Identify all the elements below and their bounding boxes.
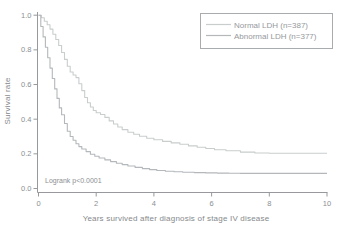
y-tick-label: 0.6 [21,80,31,89]
x-tick-label: 8 [267,199,271,208]
kaplan-meier-figure: 02468100.00.20.40.60.81.0 Logrank p<0.00… [0,0,340,228]
logrank-annotation: Logrank p<0.0001 [45,177,102,185]
x-tick-label: 10 [323,199,331,208]
y-tick-label: 0.0 [21,184,31,193]
y-tick-label: 1.0 [21,11,31,20]
x-axis-title: Years survived after diagnosis of stage … [83,214,270,223]
x-tick-label: 0 [36,199,40,208]
legend-label-abnormal-ldh: Abnormal LDH (n=377) [234,32,317,41]
legend: Normal LDH (n=387) Abnormal LDH (n=377) [201,14,333,49]
x-tick-label: 4 [152,199,156,208]
x-tick-label: 2 [94,199,98,208]
legend-label-normal-ldh: Normal LDH (n=387) [234,21,308,30]
y-tick-label: 0.2 [21,149,31,158]
survival-chart: 02468100.00.20.40.60.81.0 Logrank p<0.00… [0,0,340,228]
x-tick-label: 6 [210,199,214,208]
y-tick-label: 0.4 [21,115,31,124]
y-axis-title: Survival rate [3,77,12,124]
y-tick-label: 0.8 [21,45,31,54]
